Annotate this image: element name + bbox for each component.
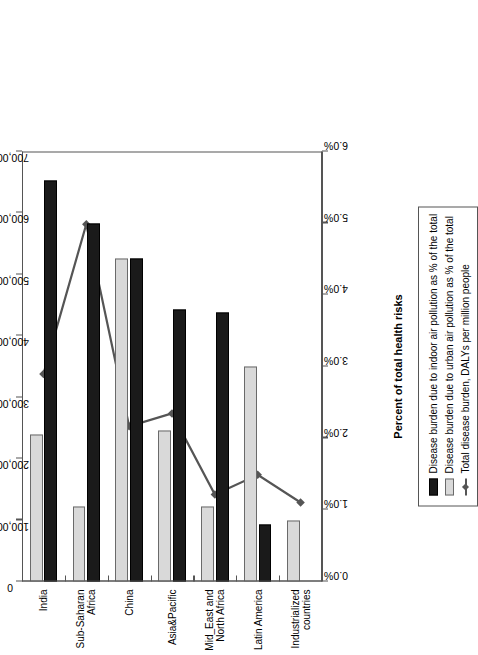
line-marker [296, 498, 304, 506]
secondary-tick-label: 300,000 [0, 397, 29, 409]
category-label-line: China [124, 589, 135, 655]
category-label-line: Industrialized [290, 589, 301, 655]
legend-label: Total disease burden, DALYs per million … [460, 264, 471, 473]
bar-urban [30, 434, 43, 581]
category-label: Asia&Pacific [167, 589, 178, 655]
bar-urban [287, 520, 300, 581]
secondary-tick-label: 700,000 [0, 151, 29, 163]
bar-indoor [259, 524, 272, 581]
category-tick [279, 575, 280, 581]
category-tick [236, 575, 237, 581]
bar-urban [115, 259, 128, 582]
category-label-line: Mid_East and [204, 589, 215, 655]
secondary-tick-label: 500,000 [0, 274, 29, 286]
legend-swatch-indoor-icon [429, 478, 438, 495]
category-tick [108, 575, 109, 581]
bar-indoor [173, 309, 186, 581]
category-label: India [38, 589, 49, 655]
bar-indoor [216, 312, 229, 581]
category-tick [151, 575, 152, 581]
category-label-line: Latin America [252, 589, 263, 655]
chart-legend: Disease burden due to indoor air polluti… [418, 206, 478, 506]
primary-tick-label: 3.0% [324, 354, 348, 366]
category-label: Industrializedcountries [290, 589, 312, 655]
legend-line-marker-icon [461, 478, 470, 495]
secondary-tick-label: 0 [7, 581, 13, 593]
secondary-tick-label: 600,000 [0, 212, 29, 224]
secondary-tick-label: 200,000 [0, 458, 29, 470]
legend-swatch-urban-icon [445, 478, 454, 495]
bar-indoor [130, 259, 143, 582]
legend-entry: Total disease burden, DALYs per million … [460, 264, 471, 495]
primary-axis-title: Percent of total health risks [392, 294, 404, 438]
bar-indoor [44, 180, 57, 581]
legend-label: Disease burden due to indoor air polluti… [428, 213, 439, 473]
category-label: Latin America [252, 589, 263, 655]
secondary-tick-label: 400,000 [0, 335, 29, 347]
secondary-tick [16, 518, 22, 519]
category-label: Sub-SaharanAfrica [75, 589, 97, 655]
bar-urban [73, 506, 86, 581]
primary-tick-label: 4.0% [324, 282, 348, 294]
primary-tick-label: 6.0% [324, 139, 348, 151]
category-label-line: countries [301, 589, 312, 655]
category-label-line: India [38, 589, 49, 655]
bar-indoor [87, 223, 100, 581]
primary-tick-label: 0.0% [324, 569, 348, 581]
category-tick [65, 575, 66, 581]
legend-entry: Disease burden due to urban air pollutio… [444, 216, 455, 495]
primary-tick-label: 2.0% [324, 426, 348, 438]
category-label: China [124, 589, 135, 655]
bar-urban [201, 506, 214, 581]
bar-urban [244, 366, 257, 581]
category-axis-line [22, 580, 322, 581]
legend-entry: Disease burden due to indoor air polluti… [428, 213, 439, 495]
category-label-line: Africa [86, 589, 97, 655]
category-label-line: Asia&Pacific [167, 589, 178, 655]
secondary-tick-label: 100,000 [0, 520, 29, 532]
bar-urban [158, 431, 171, 582]
category-label-line: North Africa [215, 589, 226, 655]
legend-label: Disease burden due to urban air pollutio… [444, 216, 455, 473]
category-tick [193, 575, 194, 581]
category-label-line: Sub-Saharan [75, 589, 86, 655]
category-label: Mid_East andNorth Africa [204, 589, 226, 655]
primary-tick-label: 1.0% [324, 497, 348, 509]
primary-tick-label: 5.0% [324, 211, 348, 223]
